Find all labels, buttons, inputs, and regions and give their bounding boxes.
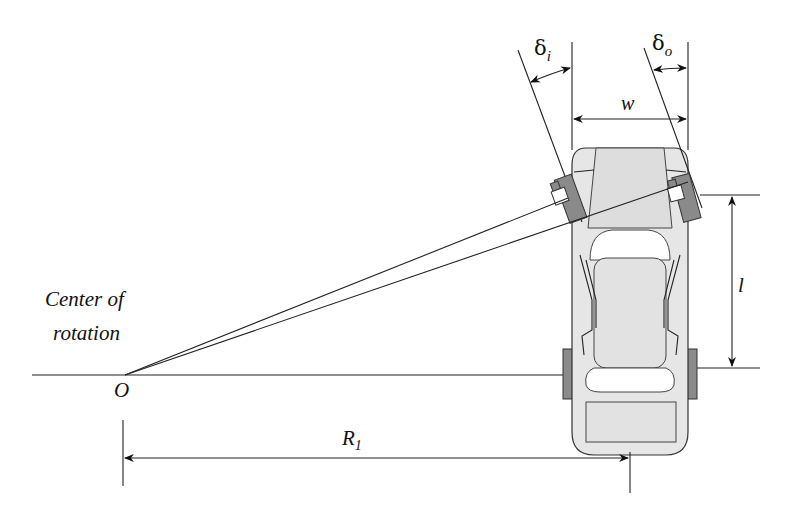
outer-steer-angle-label: δo	[652, 31, 673, 59]
origin-label: O	[114, 378, 129, 402]
roof	[594, 258, 666, 368]
rear-window	[586, 368, 675, 392]
center-of-rotation-label-line1: Center of	[45, 287, 127, 311]
trunk	[586, 402, 676, 442]
inner-steer-angle-arrow	[531, 68, 570, 82]
center-of-rotation-label-line2: rotation	[53, 321, 120, 345]
wheelbase-label: l	[738, 273, 744, 297]
outer-steer-angle-arrow	[654, 68, 686, 70]
hood	[588, 148, 672, 228]
inner-steer-angle-label: δi	[534, 36, 551, 64]
windshield	[590, 230, 670, 260]
radius-label: R1	[341, 426, 362, 453]
ray-to-inner-wheel	[125, 198, 568, 375]
track-width-label: w	[621, 92, 635, 114]
steering-geometry-diagram: w δi δo l R1 Center of rotation O	[0, 0, 795, 513]
